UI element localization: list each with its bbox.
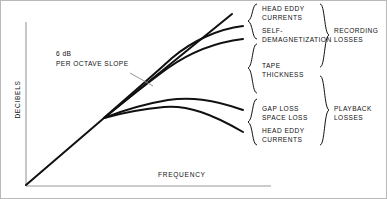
group-label-recording-losses-line1: RECORDING <box>334 26 378 35</box>
loss-item-self-demagnetization-line2: DEMAGNETIZATION <box>262 35 332 44</box>
loss-item-space-loss: SPACE LOSS <box>262 113 308 122</box>
loss-item-tape-thickness-line1: TAPE <box>262 61 281 70</box>
brace-playback-items <box>248 99 257 145</box>
loss-item-self-demagnetization-line1: SELF- <box>262 26 283 35</box>
brace-playback-losses <box>320 76 329 145</box>
figure-canvas: DECIBELS FREQUENCY 6 dB PER OCTAVE SLOPE… <box>0 0 387 199</box>
group-label-recording-losses-line2: LOSSES <box>334 35 363 44</box>
slope-annotation-line1: 6 dB <box>56 49 71 58</box>
loss-item-tape-thickness-line2: THICKNESS <box>262 70 304 79</box>
y-axis-label: DECIBELS <box>14 70 21 130</box>
group-label-playback-losses-line1: PLAYBACK <box>334 104 372 113</box>
loss-item-head-eddy-currents-record-line1: HEAD EDDY <box>262 4 305 13</box>
brace-tape-thickness <box>248 44 257 93</box>
loss-item-head-eddy-currents-record-line2: CURRENTS <box>262 13 302 22</box>
brace-recording-head-eddy-self-demag <box>248 4 257 39</box>
loss-item-head-eddy-currents-playback-line2: CURRENTS <box>262 135 302 144</box>
slope-annotation-line2: PER OCTAVE SLOPE <box>56 59 129 68</box>
loss-item-gap-loss: GAP LOSS <box>262 104 299 113</box>
x-axis-label: FREQUENCY <box>158 170 206 179</box>
loss-item-head-eddy-currents-playback-line1: HEAD EDDY <box>262 126 305 135</box>
group-label-playback-losses-line2: LOSSES <box>334 113 363 122</box>
